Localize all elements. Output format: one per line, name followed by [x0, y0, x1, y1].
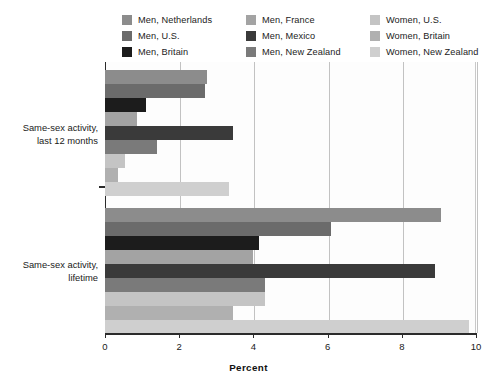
category-label-line: last 12 months [0, 134, 98, 147]
legend-swatch-icon [122, 47, 132, 57]
category-label-line: Same-sex activity, [0, 121, 98, 134]
x-axis-tick [105, 333, 106, 338]
x-axis-tick-label: 10 [471, 341, 482, 352]
legend-swatch-icon [122, 31, 132, 41]
bar [105, 292, 265, 306]
x-axis-tick-label: 8 [399, 341, 404, 352]
legend-label: Men, U.S. [138, 31, 180, 41]
legend-swatch-icon [246, 31, 256, 41]
legend-item: Men, France [246, 12, 370, 28]
bar [105, 182, 229, 196]
legend-swatch-icon [122, 15, 132, 25]
bar [105, 154, 125, 168]
legend-swatch-icon [246, 15, 256, 25]
x-axis-tick-label: 0 [102, 341, 107, 352]
bar [105, 98, 146, 112]
legend-item: Women, U.S. [370, 12, 490, 28]
legend-label: Men, Britain [138, 47, 188, 57]
gridline [477, 62, 478, 333]
bar [105, 236, 259, 250]
category-label-lifetime: Same-sex activity,lifetime [0, 258, 98, 284]
bar [105, 222, 331, 236]
category-label-line: Same-sex activity, [0, 258, 98, 271]
x-axis-line [105, 333, 476, 335]
x-axis-tick [253, 333, 254, 338]
legend-item: Women, New Zealand [370, 44, 490, 60]
plot-area [105, 62, 476, 333]
bar [105, 208, 441, 222]
bar [105, 70, 207, 84]
bar [105, 168, 118, 182]
legend-label: Men, Netherlands [138, 15, 212, 25]
legend-item: Men, Britain [122, 44, 246, 60]
category-label-last-12-months: Same-sex activity,last 12 months [0, 121, 98, 147]
legend-label: Men, Mexico [262, 31, 315, 41]
bar [105, 306, 233, 320]
x-axis-tick-label: 4 [251, 341, 256, 352]
bar [105, 112, 137, 126]
legend-label: Women, New Zealand [386, 47, 479, 57]
bar [105, 84, 205, 98]
x-axis-tick-label: 2 [177, 341, 182, 352]
legend-item: Women, Britain [370, 28, 490, 44]
chart-legend: Men, NetherlandsMen, U.S.Men, BritainMen… [122, 12, 490, 60]
legend-label: Women, U.S. [386, 15, 442, 25]
bar [105, 126, 233, 140]
legend-swatch-icon [370, 47, 380, 57]
bar [105, 250, 253, 264]
legend-swatch-icon [370, 15, 380, 25]
legend-swatch-icon [370, 31, 380, 41]
x-axis-tick-label: 6 [325, 341, 330, 352]
bar [105, 320, 469, 334]
legend-item: Men, New Zealand [246, 44, 370, 60]
bar [105, 264, 435, 278]
legend-swatch-icon [246, 47, 256, 57]
legend-item: Men, Mexico [246, 28, 370, 44]
legend-label: Women, Britain [386, 31, 450, 41]
legend-item: Men, Netherlands [122, 12, 246, 28]
legend-item: Men, U.S. [122, 28, 246, 44]
x-axis-tick [402, 333, 403, 338]
legend-label: Men, France [262, 15, 315, 25]
x-axis-tick [328, 333, 329, 338]
x-axis-title: Percent [0, 362, 497, 373]
x-axis-tick [476, 333, 477, 338]
category-axis-tick [99, 186, 105, 188]
bar [105, 140, 157, 154]
category-label-line: lifetime [0, 271, 98, 284]
x-axis-tick [179, 333, 180, 338]
legend-label: Men, New Zealand [262, 47, 341, 57]
bar [105, 278, 265, 292]
